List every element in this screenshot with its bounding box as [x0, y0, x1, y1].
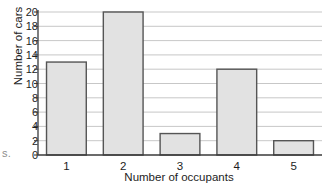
plot-area [0, 0, 329, 189]
bar [217, 69, 257, 155]
bar [160, 134, 200, 155]
bar [47, 62, 87, 155]
bar [274, 141, 314, 155]
bar [103, 12, 143, 155]
bar-chart-figure: s. Number of cars Number of occupants 02… [0, 0, 329, 189]
